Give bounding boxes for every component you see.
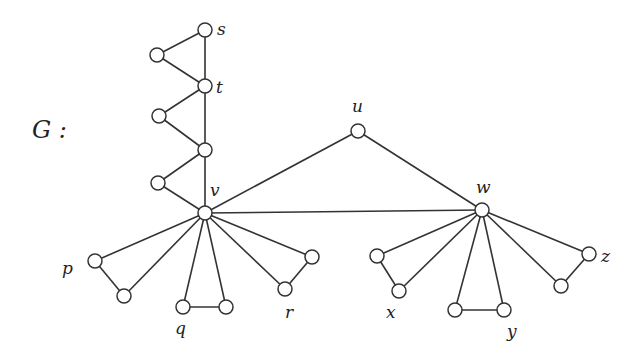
edge-v-r2 <box>205 213 285 289</box>
edge-v-q2 <box>205 213 226 307</box>
graph-name-label: G : <box>32 116 67 144</box>
vertex-y2 <box>497 303 511 317</box>
vertex-q2 <box>219 300 233 314</box>
edge-v-p2 <box>124 213 205 296</box>
vertex-label-y: y <box>506 321 517 341</box>
vertex-z1 <box>582 247 596 261</box>
vertex-label-s: s <box>217 19 226 39</box>
vertex-u <box>351 124 365 138</box>
edge-v-r1 <box>205 213 312 257</box>
vertex-a3 <box>151 176 165 190</box>
vertex-label-q: q <box>175 318 186 338</box>
vertex-label-x: x <box>386 302 396 322</box>
vertex-z2 <box>554 279 568 293</box>
vertex-y1 <box>448 303 462 317</box>
edge-m-a3 <box>158 150 205 183</box>
edge-w-z2 <box>482 210 561 286</box>
vertex-label-t: t <box>216 77 223 97</box>
vertex-label-w: w <box>476 177 491 197</box>
nodes-layer <box>88 23 596 317</box>
vertex-q1 <box>176 300 190 314</box>
edge-w-x1 <box>377 210 482 256</box>
vertex-r2 <box>278 282 292 296</box>
edge-w-z1 <box>482 210 589 254</box>
vertex-label-u: u <box>352 96 363 116</box>
vertex-label-p: p <box>62 258 73 278</box>
vertex-t <box>198 79 212 93</box>
vertex-label-z: z <box>600 246 611 266</box>
vertex-label-r: r <box>285 302 294 322</box>
edge-v-q1 <box>183 213 205 307</box>
edges-layer <box>95 30 589 310</box>
vertex-a1 <box>150 48 164 62</box>
vertex-x2 <box>392 284 406 298</box>
graph-canvas: G : stvuwpqrxyz <box>0 0 644 360</box>
edge-t-a2 <box>159 86 205 116</box>
edge-v-w <box>205 210 482 213</box>
edge-a1-t <box>157 55 205 86</box>
edge-v-u <box>205 131 358 213</box>
vertex-r1 <box>305 250 319 264</box>
edge-w-y1 <box>455 210 482 310</box>
vertex-v <box>198 206 212 220</box>
vertex-a2 <box>152 109 166 123</box>
edge-v-p1 <box>95 213 205 261</box>
edge-u-w <box>358 131 482 210</box>
vertex-p2 <box>117 289 131 303</box>
edge-a2-m <box>159 116 205 150</box>
vertex-p1 <box>88 254 102 268</box>
edge-s-a1 <box>157 30 205 55</box>
vertex-label-v: v <box>210 180 220 200</box>
edge-a3-v <box>158 183 205 213</box>
vertex-w <box>475 203 489 217</box>
edge-w-x2 <box>399 210 482 291</box>
vertex-s <box>198 23 212 37</box>
labels-layer: stvuwpqrxyz <box>62 19 611 341</box>
vertex-x1 <box>370 249 384 263</box>
edge-w-y2 <box>482 210 504 310</box>
vertex-m <box>198 143 212 157</box>
